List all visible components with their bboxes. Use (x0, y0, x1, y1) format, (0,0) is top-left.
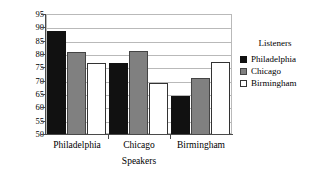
y-axis-tick-labels: 50556065707580859095 (24, 14, 44, 134)
legend-label: Chicago (251, 66, 281, 76)
bar (47, 31, 66, 135)
legend-items: PhiladelphiaChicagoBirmingham (240, 53, 320, 89)
x-axis-tick-labels: PhiladelphiaChicagoBirmingham (46, 140, 232, 154)
bar (149, 83, 168, 135)
y-tick-mark (41, 54, 46, 55)
x-tick-label: Philadelphia (53, 140, 101, 150)
bar (87, 63, 106, 135)
x-axis-title: Speakers (46, 156, 232, 166)
bar (129, 51, 148, 135)
x-tick-label: Birmingham (177, 140, 225, 150)
legend-swatch-icon (240, 80, 247, 87)
x-tick-mark (108, 135, 109, 139)
legend-item: Philadelphia (240, 53, 320, 65)
y-tick-mark (41, 14, 46, 15)
y-tick-mark (41, 67, 46, 68)
legend-title: Listeners (240, 38, 320, 48)
x-tick-mark (170, 135, 171, 139)
bar (109, 63, 128, 135)
x-tick-label: Chicago (123, 140, 155, 150)
bar (191, 78, 210, 135)
legend-item: Chicago (240, 65, 320, 77)
legend-swatch-icon (240, 68, 247, 75)
y-tick-mark (41, 134, 46, 135)
y-axis-line (45, 14, 46, 135)
legend-label: Philadelphia (251, 54, 296, 64)
plot-area (46, 14, 232, 134)
y-tick-mark (41, 121, 46, 122)
y-tick-mark (41, 94, 46, 95)
legend-item: Birmingham (240, 77, 320, 89)
y-tick-mark (41, 81, 46, 82)
bar-series-container (47, 15, 231, 133)
y-tick-mark (41, 107, 46, 108)
legend-label: Birmingham (251, 78, 297, 88)
legend-swatch-icon (240, 56, 247, 63)
bar-chart-figure: Percent correct 50556065707580859095 Phi… (0, 0, 322, 180)
y-tick-mark (41, 41, 46, 42)
bar (211, 62, 230, 135)
bar (67, 52, 86, 135)
y-tick-mark (41, 27, 46, 28)
x-axis-line (45, 134, 233, 135)
bar (171, 96, 190, 135)
legend: Listeners PhiladelphiaChicagoBirmingham (240, 38, 320, 89)
